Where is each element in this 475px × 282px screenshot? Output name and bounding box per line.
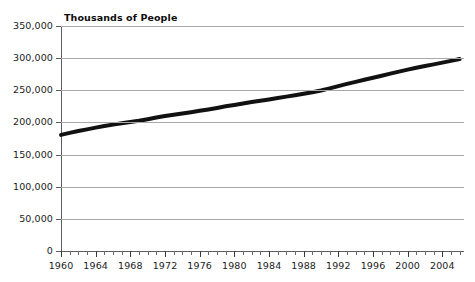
- y-tick-200000: [56, 122, 61, 123]
- population-line-chart: Thousands of People 050,000100,000150,00…: [0, 0, 475, 282]
- y-tick-label-350000: 350,000: [1, 21, 53, 31]
- gridline-y-150000: [61, 155, 464, 156]
- y-tick-300000: [56, 58, 61, 59]
- x-tick-1997: [382, 251, 383, 255]
- y-tick-label-200000: 200,000: [1, 117, 53, 127]
- y-tick-150000: [56, 155, 61, 156]
- x-tick-1995: [364, 251, 365, 255]
- x-tick-1982: [252, 251, 253, 255]
- gridline-y-300000: [61, 58, 464, 59]
- x-axis-ticks: [61, 251, 465, 257]
- x-tick-1967: [122, 251, 123, 255]
- x-tick-1972: [165, 251, 166, 257]
- x-tick-1964: [96, 251, 97, 257]
- y-axis-labels: 050,000100,000150,000200,000250,000300,0…: [0, 0, 53, 282]
- x-tick-1975: [191, 251, 192, 255]
- x-tick-1999: [399, 251, 400, 255]
- x-tick-2001: [416, 251, 417, 255]
- x-tick-1970: [148, 251, 149, 255]
- x-tick-2002: [425, 251, 426, 255]
- x-tick-label-2004: 2004: [422, 260, 462, 271]
- x-tick-1974: [182, 251, 183, 255]
- x-tick-1991: [330, 251, 331, 255]
- x-tick-1988: [304, 251, 305, 257]
- x-tick-1961: [70, 251, 71, 255]
- gridline-y-200000: [61, 122, 464, 123]
- x-tick-1973: [174, 251, 175, 255]
- x-tick-1993: [347, 251, 348, 255]
- y-tick-50000: [56, 219, 61, 220]
- x-tick-1980: [234, 251, 235, 257]
- x-tick-1983: [260, 251, 261, 255]
- y-tick-250000: [56, 90, 61, 91]
- x-tick-1963: [87, 251, 88, 255]
- x-tick-1989: [312, 251, 313, 255]
- x-tick-1978: [217, 251, 218, 255]
- x-axis-labels: 1960196419681972197619801984198819921996…: [0, 260, 475, 276]
- x-tick-1966: [113, 251, 114, 255]
- x-tick-1996: [373, 251, 374, 257]
- x-tick-1965: [104, 251, 105, 255]
- gridline-y-50000: [61, 219, 464, 220]
- x-tick-1987: [295, 251, 296, 255]
- gridline-y-250000: [61, 90, 464, 91]
- x-tick-1998: [390, 251, 391, 255]
- x-tick-1977: [208, 251, 209, 255]
- x-tick-1962: [78, 251, 79, 255]
- x-tick-1985: [278, 251, 279, 255]
- x-tick-1979: [226, 251, 227, 255]
- y-tick-label-0: 0: [1, 246, 53, 256]
- x-tick-2005: [451, 251, 452, 255]
- x-tick-2006: [460, 251, 461, 255]
- x-tick-1981: [243, 251, 244, 255]
- y-tick-350000: [56, 26, 61, 27]
- series-line-population: [61, 26, 464, 251]
- plot-area: [61, 26, 464, 251]
- y-tick-0: [56, 251, 61, 252]
- x-tick-2003: [434, 251, 435, 255]
- y-tick-label-250000: 250,000: [1, 85, 53, 95]
- x-tick-1976: [200, 251, 201, 257]
- y-tick-100000: [56, 187, 61, 188]
- gridline-y-100000: [61, 187, 464, 188]
- x-tick-1990: [321, 251, 322, 255]
- y-tick-label-150000: 150,000: [1, 150, 53, 160]
- x-tick-1992: [338, 251, 339, 257]
- gridline-y-350000: [61, 26, 464, 27]
- x-tick-1984: [269, 251, 270, 257]
- x-tick-2004: [442, 251, 443, 257]
- x-tick-1960: [61, 251, 62, 257]
- chart-title: Thousands of People: [64, 12, 177, 23]
- y-tick-label-300000: 300,000: [1, 53, 53, 63]
- x-tick-1968: [130, 251, 131, 257]
- x-tick-1969: [139, 251, 140, 255]
- y-tick-label-100000: 100,000: [1, 182, 53, 192]
- y-tick-label-50000: 50,000: [1, 214, 53, 224]
- x-tick-1986: [286, 251, 287, 255]
- x-tick-1994: [356, 251, 357, 255]
- x-tick-1971: [156, 251, 157, 255]
- x-tick-2000: [408, 251, 409, 257]
